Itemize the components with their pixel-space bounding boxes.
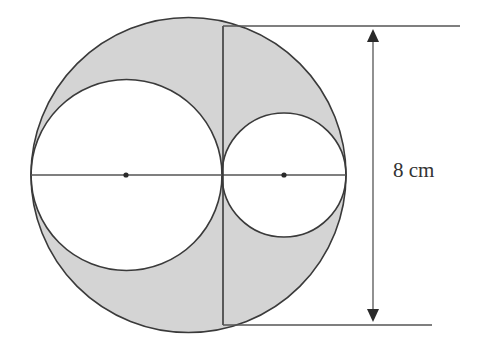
small-circle-center-point	[281, 172, 286, 177]
large-circle-center-point	[123, 172, 128, 177]
dimension-label: 8 cm	[393, 158, 434, 182]
geometry-diagram: 8 cm	[0, 0, 482, 349]
arrow-up-icon	[367, 29, 379, 42]
arrow-down-icon	[367, 309, 379, 322]
